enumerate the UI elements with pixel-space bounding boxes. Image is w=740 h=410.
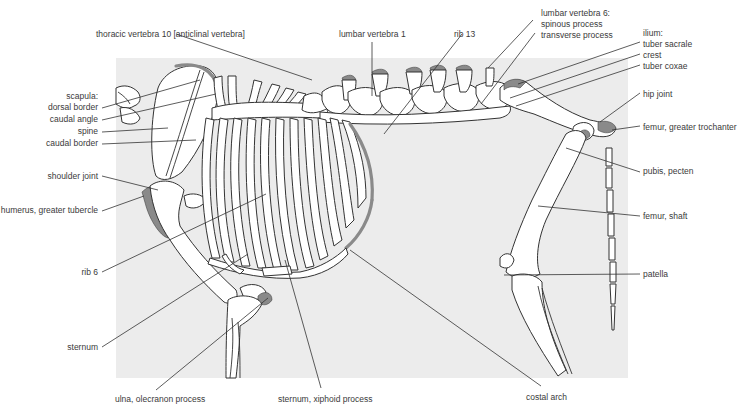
label-thoracic-vertebra-10: thoracic vertebra 10 [anticlinal vertebr… [96, 29, 245, 40]
label-patella: patella [643, 269, 668, 280]
label-scapula-caudal-angle: caudal angle [50, 114, 98, 125]
label-lumbar-vertebra-1: lumbar vertebra 1 [339, 29, 406, 40]
label-ilium-tuber-sacrale: tuber sacrale [643, 39, 692, 50]
label-lumbar-vertebra-6: lumbar vertebra 6: [541, 8, 610, 19]
label-femur-greater-trochanter: femur, greater trochanter [643, 122, 737, 133]
label-ilium-crest: crest [643, 50, 661, 61]
label-lumbar-vertebra-6-transverse-process: transverse process [541, 30, 613, 41]
label-pubis-pecten: pubis, pecten [643, 166, 694, 177]
label-costal-arch: costal arch [526, 392, 567, 403]
label-sternum-xiphoid-process: sternum, xiphoid process [278, 394, 373, 405]
label-ulna-olecranon-process: ulna, olecranon process [115, 394, 205, 405]
label-shoulder-joint: shoulder joint [47, 171, 98, 182]
label-scapula-dorsal-border: dorsal border [48, 102, 98, 113]
label-humerus-greater-tubercle: humerus, greater tubercle [1, 205, 98, 216]
label-rib-6: rib 6 [81, 267, 98, 278]
label-scapula: scapula: [66, 91, 98, 102]
label-femur-shaft: femur, shaft [643, 211, 687, 222]
label-ilium: ilium: [643, 28, 663, 39]
label-scapula-spine: spine [78, 126, 98, 137]
label-hip-joint: hip joint [643, 89, 672, 100]
skeleton-diagram [0, 0, 740, 410]
label-lumbar-vertebra-6-spinous-process: spinous process [541, 19, 602, 30]
label-scapula-caudal-border: caudal border [46, 138, 98, 149]
label-ilium-tuber-coxae: tuber coxae [643, 61, 687, 72]
label-sternum: sternum [67, 342, 98, 353]
label-rib-13: rib 13 [454, 29, 475, 40]
